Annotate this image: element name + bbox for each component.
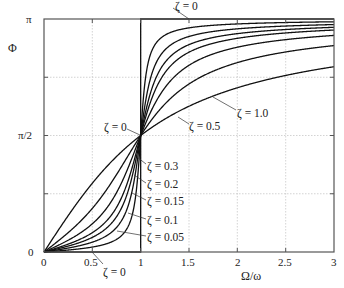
y-tick-pi: π: [26, 13, 32, 25]
x-tick-3: 3: [331, 256, 337, 268]
x-tick-0: 0: [41, 256, 47, 268]
y-axis-title: Φ: [8, 41, 17, 55]
grid: [44, 19, 334, 252]
x-tick-2-5: 2.5: [278, 256, 292, 268]
label-zeta-0-15: ζ = 0.15: [147, 195, 184, 208]
label-zeta-0-1: ζ = 0.1: [147, 214, 179, 227]
label-zeta-0-top: ζ = 0: [175, 0, 198, 13]
y-tick-zero: 0: [28, 246, 34, 258]
label-zeta-0-bottom: ζ = 0: [103, 266, 126, 279]
label-zeta-0-3: ζ = 0.3: [147, 160, 179, 173]
label-zeta-0-05: ζ = 0.05: [147, 231, 184, 244]
y-tick-half-pi: π/2: [18, 129, 32, 141]
x-tick-2: 2: [235, 256, 241, 268]
label-zeta-0-mid: ζ = 0: [104, 121, 127, 134]
x-axis-title: Ω/ω: [241, 269, 261, 283]
x-tick-1-5: 1.5: [181, 256, 195, 268]
label-zeta-1-0: ζ = 1.0: [237, 107, 269, 120]
x-tick-0-5: 0.5: [84, 256, 98, 268]
curve-zeta-0-2: [44, 30, 334, 252]
x-tick-1: 1: [138, 256, 144, 268]
phase-response-chart: π π/2 0 Φ 0 0.5 1 1.5 2 2.5 3 Ω/ω ζ = 0 …: [0, 0, 344, 288]
label-zeta-0-5: ζ = 0.5: [189, 120, 221, 133]
label-zeta-0-2: ζ = 0.2: [147, 178, 179, 191]
